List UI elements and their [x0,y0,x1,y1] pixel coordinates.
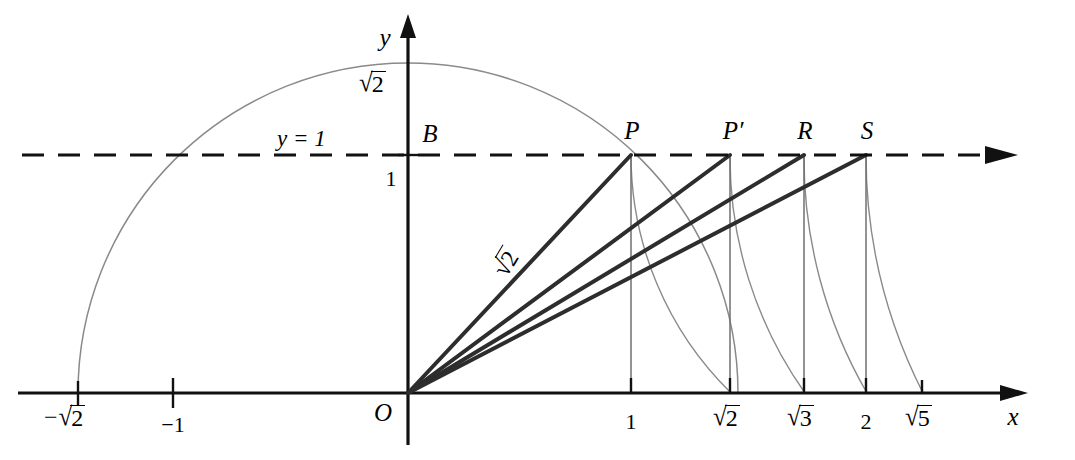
y-tick-label-1: 1 [386,166,397,191]
ray-o-to-p [408,155,631,393]
radicand: 2 [371,71,386,96]
ray-o-to-s [408,155,866,393]
radical-sqrt2-y: √2 [358,70,386,95]
point-label-s: S [861,117,874,144]
point-label-p: P [623,117,639,144]
radicand: 2 [70,405,85,430]
radical-sqrt5-x: √5 [904,404,932,429]
x-tick-label-1: 1 [626,409,637,434]
radicand: 2 [725,405,740,430]
radicand: 5 [917,405,932,430]
point-label-pprime: P′ [722,117,744,144]
point-label-b: B [422,120,437,147]
helper-arc-r-to-2 [804,155,867,393]
y-axis-arrowhead [400,14,416,38]
helper-arc-s-to-sqrt5 [866,155,923,393]
radicand: 3 [799,405,814,430]
minus-sign: − [44,404,58,430]
x-tick-label-neg-sqrt2: −√2 [44,404,85,429]
ray-o-to-pprime [408,155,730,393]
point-label-r: R [796,117,812,144]
y-axis-label: y [376,24,391,51]
radical-sqrt2-neg: √2 [58,404,86,429]
level-line-arrowhead [985,146,1018,164]
math-figure: x y O B P P′ R S 1 1 2 −1 −√2 √2 √3 √5 √… [0,0,1075,460]
radical-sqrt2-x: √2 [712,404,740,429]
x-axis-label: x [1006,403,1018,430]
level-line-equation-label: y = 1 [277,127,326,150]
level-line-equation-text: y = 1 [277,126,326,151]
x-tick-label-sqrt5: √5 [904,404,932,429]
x-tick-label-2: 2 [861,409,872,434]
x-axis-arrowhead [1000,385,1028,401]
origin-label: O [374,399,392,426]
x-tick-label-sqrt3: √3 [786,404,814,429]
x-tick-label-neg-1: −1 [161,412,184,437]
y-tick-label-sqrt2: √2 [358,70,386,95]
diagram-canvas: x y O B P P′ R S 1 1 2 −1 [0,0,1075,460]
x-tick-label-sqrt2: √2 [712,404,740,429]
radical-sqrt3-x: √3 [786,404,814,429]
ray-o-to-r [408,155,804,393]
